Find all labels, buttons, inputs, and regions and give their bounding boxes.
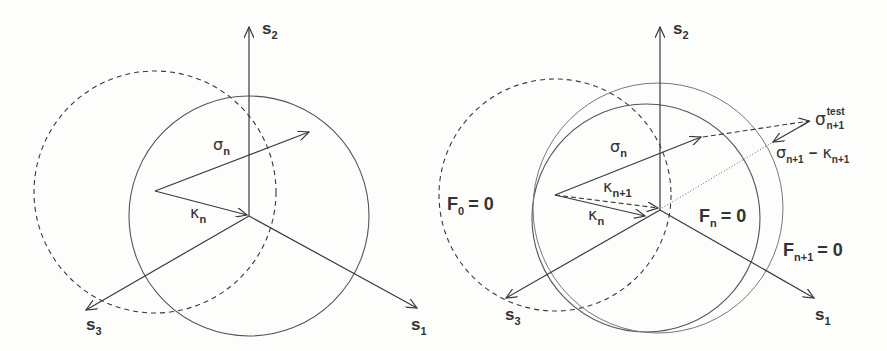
vector-sigma-increment: [703, 121, 809, 137]
right-panel: s2 s1 s3 σn κn+1 κn σtestn+1 σn+1−κn+1 F…: [439, 19, 850, 333]
axis-s3: [86, 216, 249, 310]
label-sigma-n: σn: [610, 137, 627, 159]
label-sigma-minus-kappa: σn+1−κn+1: [776, 143, 850, 165]
label-sigma-test: σtestn+1: [815, 106, 845, 131]
left-panel: s2 s1 s3 σn κn: [34, 19, 427, 337]
label-s2: s2: [262, 19, 278, 41]
label-s3: s3: [505, 305, 521, 327]
label-s2: s2: [673, 19, 689, 41]
label-fn: Fn= 0: [699, 206, 746, 229]
label-kappa-n1: κn+1: [603, 177, 632, 199]
initial-yield-surface-dashed: [34, 71, 276, 313]
label-s3: s3: [86, 315, 102, 337]
label-s1: s1: [411, 315, 427, 337]
vector-sigma-n: [155, 132, 309, 191]
yield-surface-diagram: s2 s1 s3 σn κn s2 s1 s3 σn κn+1 κn σtest…: [0, 0, 887, 351]
label-f0: F0= 0: [447, 194, 494, 217]
axis-s1: [249, 216, 417, 308]
label-fn1: Fn+1= 0: [783, 240, 843, 263]
dotted-radial: [662, 142, 773, 208]
label-sigma-n: σn: [213, 135, 230, 157]
axis-s3: [506, 210, 660, 298]
vector-kappa-n1: [555, 195, 658, 208]
label-s1: s1: [815, 305, 831, 327]
label-kappa-n: κn: [190, 203, 206, 225]
vector-kappa-n: [155, 191, 247, 215]
label-kappa-n: κn: [588, 205, 604, 227]
